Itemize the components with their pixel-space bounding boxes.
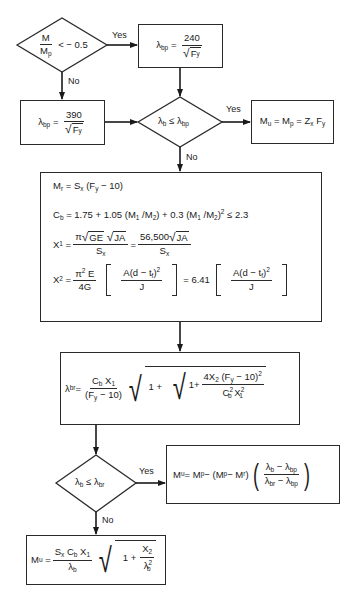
x2-equation: X2 = π2 E 4G A(d − tf)2 J = 6.41 A(d − t… xyxy=(53,264,287,296)
lambda-br-box: λbr= Cb X1 (Fy − 10) √ 1 + √ 1+ 4X2 (Fy … xyxy=(60,352,300,425)
lambda-bp-240-box: λbp = 240 √Fy xyxy=(138,24,223,68)
decision-1-no-label: No xyxy=(68,76,80,86)
decision-2-no-label: No xyxy=(186,152,198,162)
decision-3-label: λb ≤ λbr xyxy=(75,475,104,491)
decision-1-yes-label: Yes xyxy=(112,30,127,40)
mu-final-box: Mu = Sx Cb X1 λb √ 1 + X2 λ2b xyxy=(26,535,166,585)
lambda-bp-390-box: λbp = 390 √Fy xyxy=(20,100,105,145)
decision-2-yes-label: Yes xyxy=(226,104,241,114)
decision-3-no-label: No xyxy=(102,515,114,525)
section-properties-box: Mr = Sx (Fy − 10) Cb = 1.75 + 1.05 (M1 /… xyxy=(40,172,322,322)
mr-equation: Mr = Sx (Fy − 10) xyxy=(53,181,123,195)
x1-equation: X1 = π√GE √JA Sx = 56,500√JA Sx xyxy=(53,231,193,258)
cb-equation: Cb = 1.75 + 1.05 (M1 /M2) + 0.3 (M1 /M2)… xyxy=(53,209,248,223)
decision-2-label: λb ≤ λbp xyxy=(158,114,189,130)
mu-interpolation-box: Mu = Mp − (Mp − Mr) ( λb − λbp λbr − λbp… xyxy=(166,445,340,504)
decision-1-label: M Mp < − 0.5 xyxy=(36,28,88,62)
moment-ratio-fraction: M Mp xyxy=(38,33,54,58)
decision-3-yes-label: Yes xyxy=(139,466,154,476)
mu-equals-mp-box: Mu = Mp = Zx Fy xyxy=(251,100,334,144)
